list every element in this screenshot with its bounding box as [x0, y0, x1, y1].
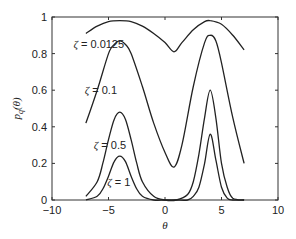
- zeta-value: = 1: [112, 176, 131, 188]
- y-tick-label: 1: [41, 11, 47, 23]
- zeta-value: = 0.5: [98, 139, 126, 151]
- x-axis-label: θ: [162, 219, 168, 231]
- curve-label: ζ = 0.0125: [73, 38, 124, 51]
- curve-label: ζ = 1: [107, 176, 130, 189]
- line-chart: −10−50510 00.20.40.60.81 ζ = 0.0125ζ = 0…: [0, 0, 296, 239]
- y-tick-label: 0.4: [32, 121, 47, 133]
- y-tick-label: 0.6: [32, 84, 47, 96]
- y-tick-label: 0.8: [32, 48, 47, 60]
- y-axis-label: pq(θ): [10, 97, 25, 121]
- curve-label: ζ = 0.5: [94, 139, 126, 152]
- zeta-value: = 0.1: [89, 84, 117, 96]
- x-tick-label: 0: [162, 204, 168, 216]
- x-tick-label: −5: [102, 204, 115, 216]
- y-axis: 00.20.40.60.81: [32, 11, 278, 206]
- y-tick-label: 0: [41, 194, 47, 206]
- zeta-value: = 0.0125: [78, 38, 124, 50]
- x-tick-label: 5: [218, 204, 224, 216]
- y-axis-label-arg: (θ): [10, 97, 23, 110]
- x-tick-label: 10: [272, 204, 284, 216]
- curve-label: ζ = 0.1: [85, 84, 117, 97]
- y-tick-label: 0.2: [32, 157, 47, 169]
